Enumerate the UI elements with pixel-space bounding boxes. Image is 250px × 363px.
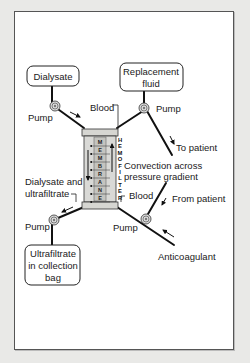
hemofilter-bottom-cap bbox=[82, 202, 118, 209]
membrane-letter: M bbox=[98, 155, 103, 161]
dialysate-ultrafiltrate-leader bbox=[71, 194, 76, 202]
hemofilter-letter: R bbox=[118, 195, 123, 201]
to-patient-label: To patient bbox=[176, 142, 218, 153]
tube-to-patient bbox=[147, 111, 172, 155]
membrane-letter: A bbox=[98, 179, 102, 185]
pump-icon-blood bbox=[141, 214, 151, 224]
membrane-letter: E bbox=[98, 147, 102, 153]
dialysate-ultrafiltrate-label-line2: ultrafiltrate bbox=[25, 188, 69, 199]
hemofilter-vertical-label: HEMOFILTER bbox=[118, 137, 123, 201]
ultrafiltrate-label-line2: in collection bbox=[28, 260, 78, 271]
pump-icon-dialysate bbox=[50, 101, 60, 111]
hemofilter-letter: H bbox=[118, 137, 122, 143]
crrt-diagram: Dialysate Replacement fluid Ultrafiltrat… bbox=[0, 0, 250, 363]
dialysate-ultrafiltrate-label-line1: Dialysate and bbox=[25, 176, 83, 187]
replacement-fluid-label-line1: Replacement bbox=[123, 66, 179, 77]
hemofilter-letter: E bbox=[118, 143, 122, 149]
convection-label-line1: Convection across bbox=[124, 160, 202, 171]
tube-filter-to-ultrafiltrate-pump bbox=[58, 207, 84, 218]
pump-label-dialysate: Pump bbox=[28, 112, 53, 123]
hemofilter-letter: F bbox=[118, 163, 122, 169]
replacement-fluid-box: Replacement fluid bbox=[120, 63, 183, 91]
arrow-anticoagulant-in bbox=[163, 230, 174, 237]
tube-dialysate-pump-to-filter bbox=[55, 107, 84, 128]
pump-label-replacement: Pump bbox=[156, 103, 181, 114]
pump-icon-replacement bbox=[139, 103, 149, 113]
dialysate-label: Dialysate bbox=[33, 71, 72, 82]
anticoagulant-label: Anticoagulant bbox=[158, 251, 216, 262]
from-patient-label: From patient bbox=[172, 193, 226, 204]
arrow-dialysate-in bbox=[70, 112, 80, 117]
membrane-letter: B bbox=[98, 163, 102, 169]
blood-label-top: Blood bbox=[90, 102, 114, 113]
hemofilter-letter: I bbox=[119, 169, 121, 175]
ultrafiltrate-label-line3: bag bbox=[45, 272, 61, 283]
hemofilter-letter: M bbox=[118, 150, 123, 156]
hemofilter-letter: T bbox=[118, 182, 122, 188]
blood-label-bottom: Blood bbox=[129, 190, 153, 201]
hemofilter-top-cap bbox=[82, 129, 118, 136]
hemofilter: MEMBRANE bbox=[82, 129, 118, 209]
membrane-letter: M bbox=[98, 139, 103, 145]
arrow-from-patient bbox=[162, 198, 166, 205]
ultrafiltrate-label-line1: Ultrafiltrate bbox=[30, 248, 76, 259]
membrane-letter: R bbox=[98, 171, 102, 177]
arrow-to-patient bbox=[170, 136, 174, 144]
membrane-letter: E bbox=[98, 195, 102, 201]
hemofilter-letter: E bbox=[118, 188, 122, 194]
convection-label-line2: pressure gradient bbox=[124, 171, 198, 182]
dialysate-box: Dialysate bbox=[27, 66, 79, 86]
pump-label-ultrafiltrate: Pump bbox=[25, 221, 50, 232]
pump-label-blood: Pump bbox=[113, 222, 138, 233]
arrow-ultrafiltrate-out bbox=[62, 207, 73, 212]
hemofilter-letter: L bbox=[118, 175, 122, 181]
pump-icon-ultrafiltrate bbox=[49, 215, 59, 225]
ultrafiltrate-bag-box: Ultrafiltrate in collection bag bbox=[25, 245, 80, 285]
tube-filter-to-replacement-pump bbox=[117, 111, 143, 128]
hemofilter-letter: O bbox=[118, 156, 123, 162]
membrane-letter: N bbox=[98, 187, 102, 193]
replacement-fluid-label-line2: fluid bbox=[142, 78, 159, 89]
